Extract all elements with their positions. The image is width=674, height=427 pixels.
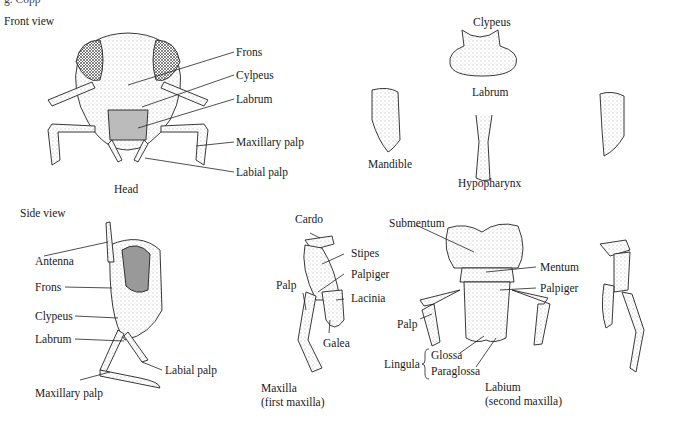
label-frons-side: Frons	[35, 281, 61, 294]
label-labrum: Labrum	[236, 93, 272, 106]
label-stipes: Stipes	[351, 247, 379, 260]
caption-maxilla: Maxilla	[261, 382, 297, 395]
caption-head: Head	[114, 183, 138, 196]
maxilla-side-drawing	[600, 240, 644, 372]
label-labial-palp-side: Labial palp	[165, 364, 217, 377]
label-paraglossa: Paraglossa	[431, 365, 480, 378]
label-palpiger-labium: Palpiger	[540, 282, 578, 295]
label-antenna: Antenna	[35, 255, 74, 268]
label-frons: Frons	[236, 46, 262, 59]
label-cardo: Cardo	[295, 213, 323, 226]
label-glossa: Glossa	[431, 349, 462, 362]
label-submentum: Submentum	[389, 217, 445, 230]
mouthparts-illustration	[0, 0, 674, 427]
label-maxillary-palp-side: Maxillary palp	[35, 387, 103, 400]
label-maxillary-palp: Maxillary palp	[236, 136, 304, 149]
side-head-drawing	[100, 222, 162, 388]
label-labial-palp: Labial palp	[236, 166, 288, 179]
side-view-title: Side view	[20, 207, 66, 220]
caption-maxilla-sub: (first maxilla)	[261, 396, 325, 409]
label-lacinia: Lacinia	[351, 292, 385, 305]
label-clypeus-side: Clypeus	[35, 310, 73, 323]
label-cylpeus: Cylpeus	[236, 69, 274, 82]
label-palpiger-maxilla: Palpiger	[351, 268, 389, 281]
caption-labium: Labium	[485, 381, 521, 394]
label-galea: Galea	[323, 337, 350, 350]
label-mentum: Mentum	[540, 261, 579, 274]
label-labrum-top: Labrum	[472, 86, 508, 99]
front-view-title: Front view	[4, 15, 54, 28]
label-mandible: Mandible	[368, 158, 412, 171]
label-palp-maxilla: Palp	[276, 279, 296, 292]
front-head-drawing	[48, 33, 208, 165]
labium-drawing	[420, 224, 550, 346]
label-palp-labium: Palp	[397, 318, 417, 331]
caption-labium-sub: (second maxilla)	[485, 395, 562, 408]
label-clypeus-top: Clypeus	[473, 16, 511, 29]
label-hypopharynx: Hypopharynx	[458, 177, 521, 190]
clipped-header-text: g. Copp	[4, 0, 40, 6]
label-lingula: Lingula	[384, 358, 420, 371]
label-labrum-side: Labrum	[35, 333, 71, 346]
